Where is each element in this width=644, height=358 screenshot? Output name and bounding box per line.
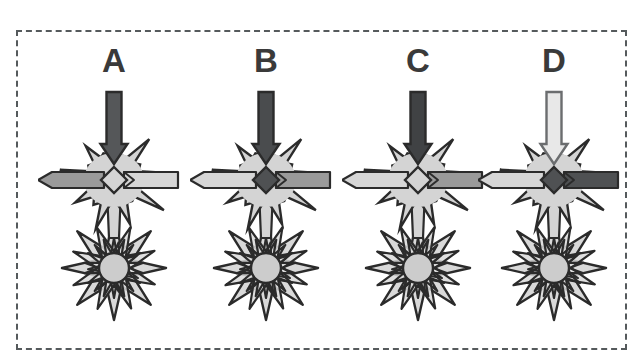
panel-c: C xyxy=(342,30,494,350)
left-bar xyxy=(342,172,408,188)
left-bar xyxy=(190,172,256,188)
panel-d: D xyxy=(478,30,630,350)
figure-root: A B C D xyxy=(0,0,644,358)
panel-c-diagram xyxy=(342,30,494,350)
left-bar xyxy=(38,172,104,188)
panel-b: B xyxy=(190,30,342,350)
panel-a-diagram xyxy=(38,30,190,350)
panel-a: A xyxy=(38,30,190,350)
left-bar xyxy=(478,172,544,188)
panel-b-diagram xyxy=(190,30,342,350)
panel-d-diagram xyxy=(478,30,630,350)
